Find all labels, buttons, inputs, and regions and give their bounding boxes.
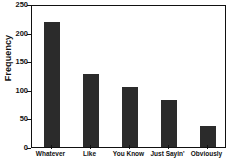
y-axis-tick-label: 200 (6, 30, 28, 37)
y-axis-tick-label: 250 (6, 1, 28, 8)
x-axis-tick-mark (90, 145, 91, 149)
bar (44, 22, 60, 147)
x-axis-tick-mark (129, 145, 130, 149)
y-axis-tick-mark (27, 34, 31, 35)
y-axis-tick-mark (27, 62, 31, 63)
y-axis-tick-mark (27, 91, 31, 92)
y-axis-tick-label: 150 (6, 58, 28, 65)
y-axis-tick-mark (27, 148, 31, 149)
bar (83, 74, 99, 147)
bar (200, 126, 216, 147)
plot-area (31, 5, 226, 148)
bar (161, 100, 177, 147)
y-axis-tick-mark (27, 119, 31, 120)
x-axis-tick-mark (207, 145, 208, 149)
y-axis-tick-labels: 050100150200250 (4, 0, 28, 158)
bar-chart: Frequency 050100150200250 WhateverLikeYo… (0, 0, 233, 158)
x-axis-tick-mark (51, 145, 52, 149)
x-axis-tick-label: Obviously (184, 150, 230, 158)
x-axis-tick-mark (168, 145, 169, 149)
y-axis-tick-label: 0 (6, 144, 28, 151)
y-axis-tick-label: 50 (6, 115, 28, 122)
bar (122, 87, 138, 147)
y-axis-tick-label: 100 (6, 87, 28, 94)
x-axis-tick-labels: WhateverLikeYou KnowJust Sayin'Obviously (31, 149, 226, 158)
y-axis-tick-mark (27, 5, 31, 6)
